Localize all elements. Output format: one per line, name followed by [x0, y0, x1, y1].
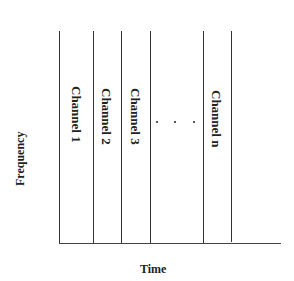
- time-axis-label: Time: [140, 262, 166, 277]
- channel-label-1: Channel 1: [68, 86, 84, 143]
- divider-line-6: [231, 31, 232, 242]
- divider-line-1: [59, 31, 60, 244]
- time-axis-line: [59, 243, 281, 244]
- divider-line-5: [203, 31, 204, 244]
- ellipsis-dot-2: [174, 121, 176, 123]
- divider-line-3: [121, 31, 122, 244]
- channel-label-2: Channel 2: [98, 88, 114, 145]
- channel-label-3: Channel 3: [127, 88, 143, 145]
- ellipsis-dot-1: [156, 121, 158, 123]
- frequency-axis-label: Frequency: [13, 132, 28, 186]
- ellipsis-dot-3: [193, 121, 195, 123]
- channel-label-n: Channel n: [208, 90, 224, 147]
- divider-line-2: [93, 31, 94, 244]
- divider-line-4: [150, 31, 151, 244]
